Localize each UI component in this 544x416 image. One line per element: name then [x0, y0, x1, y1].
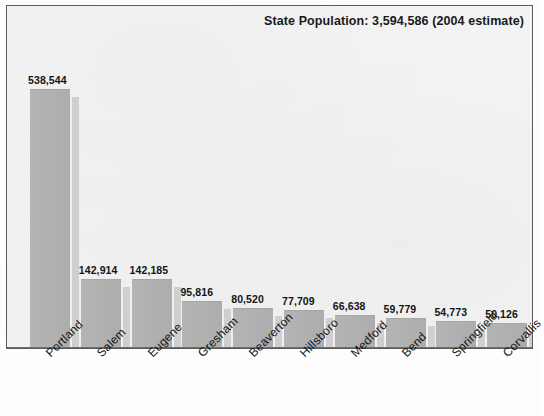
x-axis-category-labels: PortlandSalemEugeneGreshamBeavertonHills… — [6, 350, 533, 416]
bar-shadow — [72, 97, 79, 347]
bar-value-label: 142,185 — [130, 264, 169, 276]
bar-value-label: 77,709 — [282, 295, 315, 307]
bar-value-label: 538,544 — [28, 74, 67, 86]
chart-frame: State Population: 3,594,586 (2004 estima… — [6, 5, 533, 349]
bar-value-label: 80,520 — [231, 293, 264, 305]
bar-value-label: 59,779 — [384, 303, 417, 315]
bar-body — [30, 89, 70, 347]
chart-title: State Population: 3,594,586 (2004 estima… — [264, 14, 524, 28]
bar-value-label: 142,914 — [79, 264, 118, 276]
bar-portland: 538,544 — [30, 69, 80, 347]
bar-value-label: 54,773 — [434, 306, 467, 318]
bar-value-label: 95,816 — [180, 286, 213, 298]
bar-value-label: 66,638 — [333, 300, 366, 312]
plot-area: 538,544142,914142,18595,81680,52077,7096… — [7, 5, 532, 348]
bar-shadow — [428, 326, 435, 347]
